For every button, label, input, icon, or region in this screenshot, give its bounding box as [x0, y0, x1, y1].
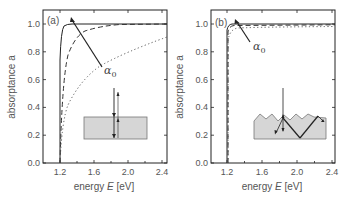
svg-text:2.0: 2.0: [291, 167, 304, 177]
svg-text:0.4: 0.4: [27, 102, 40, 112]
svg-text:0.4: 0.4: [195, 102, 208, 112]
svg-text:1.0: 1.0: [27, 19, 40, 29]
svg-text:1.6: 1.6: [88, 167, 101, 177]
plot-frame-b: [211, 10, 335, 163]
arrow-head-icon: [235, 19, 240, 24]
y-axis-label-a: absorptance a: [6, 55, 17, 119]
svg-text:0.8: 0.8: [27, 47, 40, 57]
panel-label-b: (b): [215, 17, 227, 28]
y-tick-labels-b: 0.0 0.2 0.4 0.6 0.8 1.0: [195, 19, 208, 168]
svg-text:0.6: 0.6: [27, 75, 40, 85]
svg-text:2.4: 2.4: [156, 167, 169, 177]
arrow-head-icon: [70, 17, 75, 22]
y-ticks-b: [211, 24, 335, 163]
x-tick-labels-a: 1.2 1.6 2.0 2.4: [54, 167, 169, 177]
panel-label-a: (a): [47, 15, 59, 26]
y-ticks-a: [43, 24, 167, 163]
svg-text:1.2: 1.2: [221, 167, 234, 177]
svg-text:0.8: 0.8: [195, 47, 208, 57]
inset-textured-slab: [254, 88, 326, 139]
figure: 0.0 0.2 0.4 0.6 0.8 1.0 1.2 1.6 2.0 2.4 …: [0, 0, 342, 204]
x-axis-label-a: energy E [eV]: [74, 181, 135, 192]
x-tick-labels-b: 1.2 1.6 2.0 2.4: [221, 167, 339, 177]
svg-text:0.2: 0.2: [27, 130, 40, 140]
x-ticks-b: [227, 10, 332, 163]
panel-b: 0.0 0.2 0.4 0.6 0.8 1.0 1.2 1.6 2.0 2.4 …: [174, 10, 338, 192]
svg-text:0.0: 0.0: [195, 158, 208, 168]
x-axis-label-b: energy E [eV]: [242, 181, 303, 192]
alpha0-label-a: α0: [104, 64, 117, 79]
curve-solid-b: [227, 24, 335, 163]
svg-text:2.4: 2.4: [326, 167, 339, 177]
curve-dotted-a: [60, 37, 167, 163]
y-axis-label-b: absorptance a: [174, 55, 185, 119]
curve-dotted-b: [228, 27, 335, 164]
svg-text:0.6: 0.6: [195, 75, 208, 85]
alpha0-label-b: α0: [253, 40, 266, 55]
curve-solid-a: [60, 24, 167, 163]
curve-dashed-b: [228, 25, 335, 163]
x-ticks-a: [60, 10, 162, 163]
svg-text:0.0: 0.0: [27, 158, 40, 168]
svg-text:1.6: 1.6: [256, 167, 269, 177]
inset-planar-slab: [84, 88, 147, 139]
annotation-arrow-a: [72, 20, 102, 67]
panel-a: 0.0 0.2 0.4 0.6 0.8 1.0 1.2 1.6 2.0 2.4 …: [6, 10, 168, 192]
svg-text:0.2: 0.2: [195, 130, 208, 140]
svg-text:2.0: 2.0: [122, 167, 135, 177]
y-tick-labels-a: 0.0 0.2 0.4 0.6 0.8 1.0: [27, 19, 40, 168]
curve-dashed-a: [60, 24, 167, 163]
svg-text:1.0: 1.0: [195, 19, 208, 29]
svg-text:1.2: 1.2: [54, 167, 67, 177]
